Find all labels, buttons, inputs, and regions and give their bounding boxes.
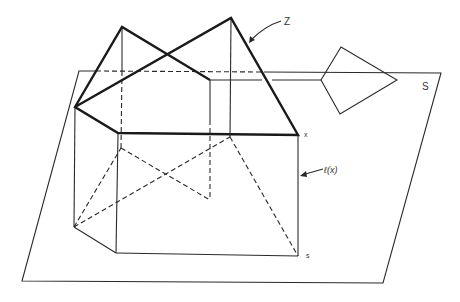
diagram-canvas: Z S x s ℓ(x) bbox=[0, 0, 460, 302]
set-z bbox=[75, 18, 298, 135]
prism-box bbox=[74, 18, 321, 256]
label-z: Z bbox=[284, 16, 290, 27]
label-s-plane: S bbox=[422, 81, 429, 92]
label-s-point: s bbox=[306, 252, 310, 259]
z-leader-arrow bbox=[249, 21, 281, 43]
label-ell-x: ℓ(x) bbox=[323, 165, 337, 175]
kite bbox=[321, 47, 397, 114]
plane-s bbox=[22, 71, 441, 283]
label-x: x bbox=[304, 131, 308, 138]
ell-leader-arrow bbox=[300, 169, 323, 177]
